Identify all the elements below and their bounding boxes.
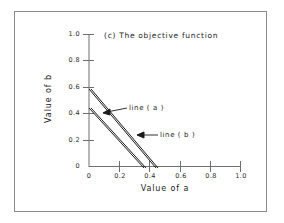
annotation-arrow-line-b [137, 132, 158, 138]
y-tick-label-0: 0 [62, 162, 80, 170]
y-tick-label-0.6: 0.6 [62, 83, 80, 91]
y-tick-label-0.8: 0.8 [62, 56, 80, 64]
x-tick-label-0.8: 0.8 [201, 172, 221, 180]
series-line-a [89, 89, 158, 168]
series-label-line-a: line ( a ) [129, 104, 164, 112]
y-tick-label-0.2: 0.2 [62, 136, 80, 144]
series-line-b [89, 108, 146, 168]
x-axis-title: Value of a [89, 184, 241, 193]
chart-title: (c) The objective function [104, 31, 218, 40]
y-tick-label-1.0: 1.0 [62, 30, 80, 38]
series-label-line-b: line ( b ) [160, 131, 195, 139]
x-tick-label-0.2: 0.2 [110, 172, 130, 180]
figure-container: 1.0 0.8 0.6 0.4 0.2 0 0 0.2 0.4 0.6 0.8 … [0, 0, 284, 223]
x-tick-label-0.6: 0.6 [171, 172, 191, 180]
x-tick-label-0.4: 0.4 [140, 172, 160, 180]
y-axis-title: Value of b [44, 49, 53, 149]
y-tick-label-0.4: 0.4 [62, 109, 80, 117]
x-tick-label-0: 0 [81, 172, 97, 180]
x-tick-label-1.0: 1.0 [231, 172, 251, 180]
